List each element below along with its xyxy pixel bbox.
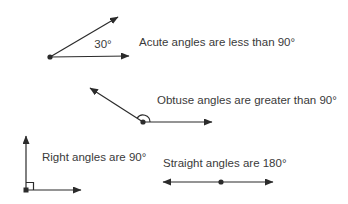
- straight-angle-caption: Straight angles are 180°: [163, 157, 287, 169]
- straight-angle-center-dot: [218, 179, 223, 184]
- angle-types-figure: 30° Acute angles are less than 90° Obtus…: [0, 0, 348, 204]
- right-angle-vertex-dot: [24, 188, 29, 193]
- acute-angle-diagram: 30°: [47, 17, 129, 60]
- acute-angle-caption: Acute angles are less than 90°: [139, 36, 295, 48]
- acute-angle-degree-label: 30°: [94, 38, 111, 50]
- acute-angle-vertex-dot: [47, 54, 52, 59]
- straight-angle-diagram: [163, 179, 273, 184]
- obtuse-angle-oblique-ray: [90, 88, 143, 122]
- angle-diagrams-canvas: 30° Acute angles are less than 90° Obtus…: [0, 0, 348, 204]
- acute-angle-oblique-ray: [50, 17, 118, 57]
- right-angle-diagram: [24, 136, 82, 193]
- obtuse-angle-vertex-dot: [140, 119, 145, 124]
- obtuse-angle-caption: Obtuse angles are greater than 90°: [157, 94, 337, 106]
- acute-angle-horizontal-ray: [50, 56, 129, 57]
- right-angle-caption: Right angles are 90°: [42, 151, 146, 163]
